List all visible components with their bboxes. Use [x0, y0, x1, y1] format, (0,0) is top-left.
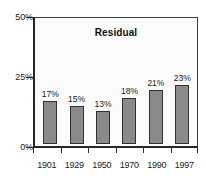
- bar-slot: 15%: [63, 18, 89, 144]
- bar-slot: 21%: [143, 18, 169, 144]
- x-axis-tick-mark: [197, 148, 198, 153]
- x-axis-tick-mark: [33, 148, 34, 153]
- bar-slot: 23%: [169, 18, 195, 144]
- bar-value-label: 21%: [147, 79, 164, 88]
- bar: [175, 85, 189, 144]
- bar-value-label: 23%: [174, 74, 191, 83]
- bars-container: 17%15%13%18%21%23%: [37, 18, 196, 144]
- bar: [149, 90, 163, 144]
- bar-value-label: 13%: [95, 100, 112, 109]
- bar-chart: 50% 25% 0% Residual 17%15%13%18%21%23% 1…: [0, 0, 206, 183]
- x-axis-tick-label: 1990: [143, 160, 171, 170]
- y-axis-tick-mark: [26, 17, 33, 18]
- x-axis-tick-mark: [171, 148, 172, 153]
- bar: [122, 98, 136, 144]
- bar-value-label: 15%: [68, 95, 85, 104]
- bar-slot: 17%: [37, 18, 63, 144]
- x-axis-tick-mark: [116, 148, 117, 153]
- y-axis: 50% 25% 0%: [0, 0, 33, 183]
- y-axis-tick-mark: [26, 147, 33, 148]
- bar: [96, 111, 110, 144]
- bar: [43, 101, 57, 144]
- bar: [70, 106, 84, 144]
- x-axis-tick-label: 1929: [61, 160, 89, 170]
- x-axis-tick-label: 1997: [171, 160, 199, 170]
- x-axis-tick-label: 1970: [116, 160, 144, 170]
- x-axis-tick-mark: [61, 148, 62, 153]
- bar-slot: 13%: [90, 18, 116, 144]
- x-axis-tick-mark: [88, 148, 89, 153]
- bar-slot: 18%: [116, 18, 142, 144]
- bar-value-label: 18%: [121, 87, 138, 96]
- plot-area: Residual 17%15%13%18%21%23%: [33, 17, 198, 148]
- x-axis: 190119291950197019901997: [33, 160, 198, 170]
- x-axis-tick-mark: [143, 148, 144, 153]
- x-axis-tick-label: 1901: [33, 160, 61, 170]
- y-axis-tick-mark: [26, 77, 33, 78]
- x-axis-tick-label: 1950: [88, 160, 116, 170]
- x-axis-ticks: [33, 148, 198, 154]
- bar-value-label: 17%: [42, 90, 59, 99]
